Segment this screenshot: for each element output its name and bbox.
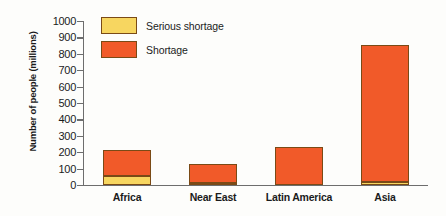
- y-axis-tick-mark: [77, 54, 83, 55]
- y-axis-tick-label: 200: [30, 147, 76, 158]
- bar-segment-shortage: [275, 147, 323, 185]
- bar-latin-america[interactable]: [275, 147, 323, 185]
- bar-africa[interactable]: [103, 150, 151, 185]
- legend-label: Shortage: [146, 44, 188, 56]
- y-axis-tick-label: 100: [30, 163, 76, 174]
- y-axis-tick-mark: [77, 87, 83, 88]
- y-axis-tick-mark: [77, 70, 83, 71]
- y-axis-tick-mark: [77, 169, 83, 170]
- x-axis-category-labels: AfricaNear EastLatin AmericaAsia: [84, 191, 428, 211]
- y-axis-tick-mark: [77, 136, 83, 137]
- y-axis-tick-label: 300: [30, 130, 76, 141]
- x-axis-line: [83, 185, 428, 186]
- y-axis-tick-label: 700: [30, 65, 76, 76]
- x-axis-label-latin-america: Latin America: [266, 191, 332, 203]
- y-axis-tick-label: 0: [30, 180, 76, 191]
- y-axis-tick-mark: [77, 37, 83, 38]
- y-axis-tick-mark: [77, 185, 83, 186]
- y-axis-tick-mark: [77, 103, 83, 104]
- legend-item: Shortage: [101, 41, 224, 58]
- y-axis-tick-mark: [77, 152, 83, 153]
- bar-segment-serious-shortage: [103, 176, 151, 185]
- bar-chart: Number of people (millions) 100090080070…: [0, 0, 446, 216]
- y-axis-tick-label: 500: [30, 98, 76, 109]
- bar-segment-shortage: [103, 150, 151, 176]
- y-axis-tick-label: 600: [30, 81, 76, 92]
- bar-asia[interactable]: [361, 45, 409, 185]
- legend-swatch-icon: [101, 41, 137, 58]
- y-axis-tick-labels: 10009008007006005004003002001000: [30, 14, 76, 192]
- legend-swatch-icon: [101, 17, 137, 34]
- bar-segment-shortage: [189, 164, 237, 183]
- bar-segment-serious-shortage: [361, 182, 409, 185]
- y-axis-tick-label: 800: [30, 48, 76, 59]
- x-axis-label-near-east: Near East: [190, 191, 237, 203]
- x-axis-label-africa: Africa: [113, 191, 142, 203]
- y-axis-tick-label: 400: [30, 114, 76, 125]
- chart-legend: Serious shortageShortage: [101, 17, 224, 65]
- y-axis-tick-mark: [77, 21, 83, 22]
- bar-segment-serious-shortage: [189, 183, 237, 185]
- y-axis-tick-label: 900: [30, 32, 76, 43]
- y-axis-tick-label: 1000: [30, 16, 76, 27]
- x-axis-label-asia: Asia: [374, 191, 395, 203]
- legend-label: Serious shortage: [146, 20, 224, 32]
- legend-item: Serious shortage: [101, 17, 224, 34]
- y-axis-tick-mark: [77, 119, 83, 120]
- bar-segment-shortage: [361, 45, 409, 182]
- bar-near-east[interactable]: [189, 164, 237, 185]
